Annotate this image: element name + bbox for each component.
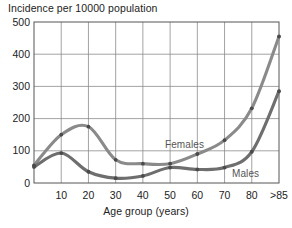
data-point bbox=[277, 89, 281, 93]
data-point bbox=[250, 150, 254, 154]
x-tick-label: 10 bbox=[46, 190, 76, 200]
y-tick-label: 400 bbox=[0, 49, 30, 59]
x-tick-label: 80 bbox=[237, 190, 267, 200]
data-point bbox=[141, 174, 145, 178]
data-point bbox=[195, 152, 199, 156]
x-tick-label: >85 bbox=[264, 190, 292, 200]
data-point bbox=[250, 106, 254, 110]
data-point bbox=[223, 166, 227, 170]
data-point bbox=[87, 125, 91, 129]
data-point bbox=[141, 162, 145, 166]
data-point bbox=[168, 162, 172, 166]
x-tick-label: 70 bbox=[210, 190, 240, 200]
data-point bbox=[195, 168, 199, 172]
data-point bbox=[114, 176, 118, 180]
data-point bbox=[114, 158, 118, 162]
x-tick-label: 50 bbox=[155, 190, 185, 200]
data-series bbox=[34, 36, 279, 178]
data-point bbox=[223, 138, 227, 142]
series-line-females bbox=[34, 36, 279, 165]
y-tick-label: 200 bbox=[0, 113, 30, 123]
x-axis-label: Age group (years) bbox=[0, 205, 292, 217]
x-tick-label: 40 bbox=[128, 190, 158, 200]
y-tick-label: 300 bbox=[0, 81, 30, 91]
data-point bbox=[59, 151, 63, 155]
incidence-line-chart: Incidence per 10000 population 010020030… bbox=[0, 0, 292, 228]
data-point bbox=[32, 165, 36, 169]
x-tick-label: 20 bbox=[73, 190, 103, 200]
data-point bbox=[168, 166, 172, 170]
data-point bbox=[277, 35, 281, 39]
x-tick-label: 60 bbox=[182, 190, 212, 200]
y-tick-label: 100 bbox=[0, 145, 30, 155]
x-tick-label: 30 bbox=[101, 190, 131, 200]
data-point bbox=[59, 133, 63, 137]
y-tick-label: 500 bbox=[0, 17, 30, 27]
series-label-males: Males bbox=[232, 168, 259, 179]
y-tick-label: 0 bbox=[0, 178, 30, 188]
chart-title: Incidence per 10000 population bbox=[8, 2, 158, 15]
series-label-females: Females bbox=[165, 139, 204, 150]
data-point bbox=[87, 170, 91, 174]
